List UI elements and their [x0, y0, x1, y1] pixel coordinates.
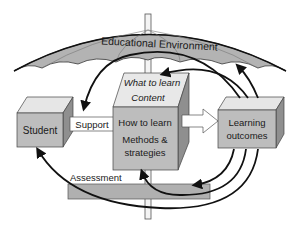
strategies-label: strategies: [124, 147, 165, 158]
arrow-outcomes-to-assessment: [195, 149, 234, 185]
what-to-learn-label: What to learn: [124, 77, 181, 88]
learning-label: Learning: [229, 117, 266, 128]
student-label: Student: [23, 125, 58, 136]
diagram-canvas: Educational Environment Assessment Stude…: [0, 0, 301, 227]
arrow-outcomes-to-environment: [238, 66, 258, 98]
how-to-learn-label: How to learn: [118, 117, 171, 128]
student-box: Student: [17, 97, 73, 147]
methods-label: Methods &: [122, 134, 168, 145]
content-label: Content: [131, 92, 165, 103]
support-label: Support: [75, 119, 109, 130]
assessment-label: Assessment: [70, 172, 122, 183]
outcomes-label: outcomes: [226, 130, 267, 141]
learning-outcomes-box: Learning outcomes: [218, 97, 284, 148]
support-connector: Support: [70, 117, 114, 131]
